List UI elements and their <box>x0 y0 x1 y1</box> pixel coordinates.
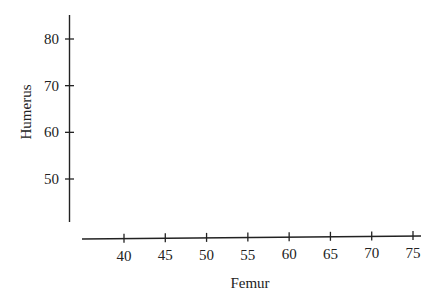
x-axis: 4045505560657075 <box>82 231 421 264</box>
x-tick-label: 55 <box>240 247 255 263</box>
x-axis-title: Femur <box>230 275 269 291</box>
x-tick-label: 45 <box>158 247 173 263</box>
y-axis: 50607080 <box>44 15 74 222</box>
x-tick-label: 40 <box>117 248 132 264</box>
x-tick-label: 70 <box>364 245 379 261</box>
y-axis-title: Humerus <box>18 84 34 139</box>
x-tick-label: 50 <box>199 247 214 263</box>
x-tick-label: 60 <box>282 246 297 262</box>
y-tick-label: 70 <box>44 78 59 94</box>
y-tick-label: 60 <box>44 124 59 140</box>
x-tick-label: 65 <box>323 246 338 262</box>
y-tick-label: 50 <box>44 171 59 187</box>
y-tick-label: 80 <box>44 31 59 47</box>
x-tick-label: 75 <box>406 245 421 261</box>
scatter-plot-axes: 50607080 4045505560657075 Humerus Femur <box>0 0 439 307</box>
